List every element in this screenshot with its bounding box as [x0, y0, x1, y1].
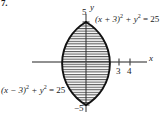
equation-bottom-open: (x − 3): [1, 85, 26, 95]
equation-label-top-right: (x + 3)2 + y2 = 25: [95, 15, 159, 24]
equation-bottom-plus: + y: [29, 85, 44, 95]
y-tick-label-5: 5: [82, 8, 87, 17]
shaded-region: [30, 14, 150, 114]
x-tick-label-3: 3: [116, 67, 121, 76]
equation-top-open: (x + 3): [95, 14, 120, 24]
y-axis-label: y: [90, 3, 94, 12]
y-tick-label-neg5: −5: [74, 104, 84, 113]
equation-top-plus: + y: [123, 14, 138, 24]
x-axis-label: x: [149, 54, 153, 63]
equation-label-bottom-left: (x − 3)2 + y2 = 25: [1, 86, 65, 95]
equation-bottom-equals: = 25: [47, 85, 66, 95]
figure-container: 7. (x + 3)2 + y2 = 2: [0, 0, 168, 122]
x-tick-label-4: 4: [127, 67, 132, 76]
equation-top-equals: = 25: [141, 14, 160, 24]
